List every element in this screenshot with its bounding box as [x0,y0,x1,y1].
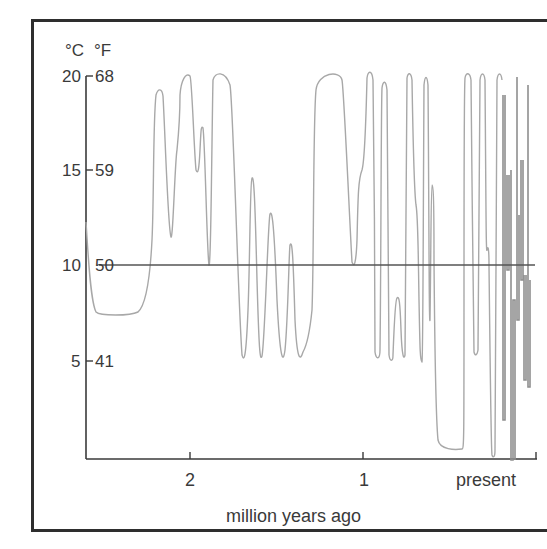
unit-celsius-label: °C [65,42,84,59]
y-tick-c-15: 15 [62,162,81,179]
x-axis-label: million years ago [226,507,361,525]
unit-fahrenheit-label: °F [94,42,111,59]
y-tick-f-68: 68 [95,68,114,85]
y-tick-f-41: 41 [95,353,114,370]
x-tick-1: 1 [359,471,369,489]
x-tick-2: 2 [185,471,195,489]
y-tick-f-59: 59 [95,162,114,179]
y-tick-c-20: 20 [62,68,81,85]
chart-plot [0,0,547,549]
y-tick-c-10: 10 [62,257,81,274]
y-tick-c-5: 5 [71,353,80,370]
x-tick-present: present [456,471,516,489]
y-tick-f-50: 50 [95,257,114,274]
temperature-curve-dense [503,77,530,460]
